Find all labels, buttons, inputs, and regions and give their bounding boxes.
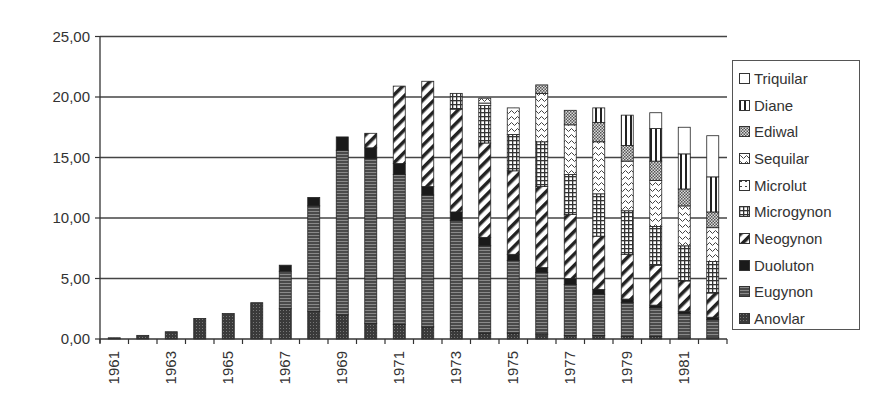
segment-eugynon [393,174,405,324]
segment-neogynon [365,133,377,148]
segment-eugynon [564,285,576,336]
segment-duoluton [536,268,548,273]
y-tick-label: 10,00 [52,209,90,226]
segment-ediwal [536,85,548,93]
segment-neogynon [507,171,519,254]
segment-sequilar [650,180,662,226]
x-tick-label: 1975 [504,351,521,384]
segment-anovlar [194,318,206,339]
bar-1967 [279,265,291,339]
segment-anovlar [450,331,462,339]
segment-anovlar [507,333,519,339]
segment-anovlar [308,311,320,339]
segment-sequilar [536,93,548,141]
segment-sequilar [593,142,605,194]
bar-1975 [507,108,519,339]
diane-swatch-icon [739,100,750,111]
segment-anovlar [536,334,548,339]
y-tick-label: 0,00 [61,330,90,347]
x-tick-label: 1969 [333,351,350,384]
segment-neogynon [650,265,662,305]
y-tick-label: 25,00 [52,28,90,45]
legend-item-microlut: Microlut [739,172,859,199]
segment-neogynon [621,254,633,299]
segment-microgynon [479,105,491,143]
segment-neogynon [564,214,576,278]
legend-item-microgynon: Microgynon [739,198,859,225]
segment-microgynon [650,226,662,265]
segment-diane [621,115,633,145]
bar-1969 [336,137,348,339]
x-tick-label: 1981 [675,351,692,384]
segment-duoluton [507,254,519,260]
segment-duoluton [308,197,320,205]
legend-label: Triquilar [754,70,808,87]
bars [108,81,719,339]
duoluton-swatch-icon [739,260,750,271]
y-axis-labels: 0,005,0010,0015,0020,0025,00 [52,28,90,348]
bar-1970 [365,133,377,339]
segment-neogynon [393,86,405,163]
segment-ediwal [707,212,719,228]
segment-anovlar [422,327,434,339]
y-tick-label: 20,00 [52,88,90,105]
bar-1979 [621,115,633,339]
segment-ediwal [593,122,605,141]
segment-microgynon [450,93,462,109]
segment-triquilar [707,136,719,177]
legend-label: Microlut [754,177,807,194]
anovlar-swatch-icon [739,313,750,324]
x-tick-label: 1979 [618,351,635,384]
legend-label: Ediwal [754,123,798,140]
sequilar-swatch-icon [739,153,750,164]
x-tick-label: 1963 [162,351,179,384]
segment-eugynon [678,314,690,338]
segment-eugynon [507,260,519,333]
legend-label: Duoluton [754,257,814,274]
segment-duoluton [479,237,491,245]
segment-neogynon [422,81,434,186]
segment-eugynon [707,320,719,338]
segment-neogynon [707,293,719,317]
segment-anovlar [251,303,263,339]
segment-anovlar [279,309,291,339]
segment-eugynon [593,294,605,335]
x-axis-labels: 1961196319651967196919711973197519771979… [105,351,692,384]
bar-1973 [450,93,462,339]
x-tick-label: 1967 [276,351,293,384]
segment-anovlar [479,333,491,339]
eugynon-swatch-icon [739,286,750,297]
neogynon-swatch-icon [739,233,750,244]
legend-item-ediwal: Ediwal [739,118,859,145]
x-tick-label: 1961 [105,351,122,384]
bar-1972 [422,81,434,339]
bar-1964 [194,318,206,339]
segment-diane [593,108,605,123]
x-tick-label: 1971 [390,351,407,384]
triquilar-swatch-icon [739,73,750,84]
segment-anovlar [222,314,234,339]
ediwal-swatch-icon [739,126,750,137]
bar-1980 [650,113,662,339]
segment-neogynon [593,236,605,289]
segment-duoluton [564,279,576,285]
segment-sequilar [621,161,633,211]
segment-eugynon [536,272,548,334]
legend-item-neogynon: Neogynon [739,225,859,252]
segment-microgynon [507,135,519,171]
segment-duoluton [279,265,291,271]
segment-eugynon [422,195,434,327]
segment-microgynon [593,194,605,236]
segment-duoluton [593,289,605,294]
segment-neogynon [536,187,548,268]
segment-duoluton [393,164,405,175]
legend-label: Eugynon [754,283,813,300]
segment-microgynon [678,246,690,281]
bar-1971 [393,86,405,339]
segment-sequilar [479,98,491,103]
segment-triquilar [650,113,662,129]
segment-eugynon [450,220,462,330]
legend-item-eugynon: Eugynon [739,279,859,306]
legend-item-sequilar: Sequilar [739,145,859,172]
bar-1981 [678,127,690,339]
